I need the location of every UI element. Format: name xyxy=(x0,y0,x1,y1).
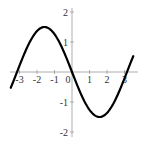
function-plot: -3-2-10123-2-112 xyxy=(0,0,142,145)
y-tick-label: -2 xyxy=(60,127,68,138)
x-tick-label: 0 xyxy=(66,74,71,85)
x-tick-label: -1 xyxy=(50,74,58,85)
y-tick-label: 2 xyxy=(63,7,68,18)
y-tick-label: -1 xyxy=(60,97,68,108)
y-tick-label: 1 xyxy=(63,37,68,48)
x-tick-label: 2 xyxy=(105,74,110,85)
axes xyxy=(10,8,138,137)
x-tick-label: 1 xyxy=(87,74,92,85)
x-tick-label: -2 xyxy=(33,74,41,85)
